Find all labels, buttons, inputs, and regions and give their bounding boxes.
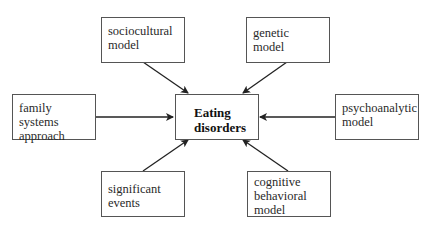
node-psychoanalytic-model: psychoanalytic model (335, 94, 419, 140)
node-label-line: events (108, 196, 178, 210)
node-cognitive-behavioral-model: cognitive behavioral model (247, 171, 331, 217)
arrow-sociocultural (143, 62, 188, 93)
arrow-cognitive (243, 140, 288, 171)
node-genetic-model: genetic model (246, 17, 330, 63)
arrow-significant (143, 140, 188, 171)
node-label-line: sociocultural (108, 24, 178, 38)
node-eating-disorders: Eating disorders (175, 94, 259, 140)
node-label-line: model (108, 38, 178, 52)
node-label-line: cognitive (254, 175, 324, 189)
node-label-line: model (254, 203, 324, 217)
node-label-line: family systems (19, 101, 89, 129)
node-family-systems-approach: family systems approach (12, 94, 96, 140)
node-label-line: significant (108, 182, 178, 196)
node-label-line: behavioral (254, 189, 324, 203)
center-label-line: disorders (194, 120, 258, 135)
node-label-line: model (342, 115, 412, 129)
node-label-line: approach (19, 129, 89, 143)
node-label-line: genetic model (253, 26, 323, 54)
node-significant-events: significant events (101, 171, 185, 217)
node-label-line: psychoanalytic (342, 101, 412, 115)
center-label-line: Eating (194, 105, 258, 120)
node-sociocultural-model: sociocultural model (101, 17, 185, 63)
arrow-genetic (243, 62, 287, 93)
